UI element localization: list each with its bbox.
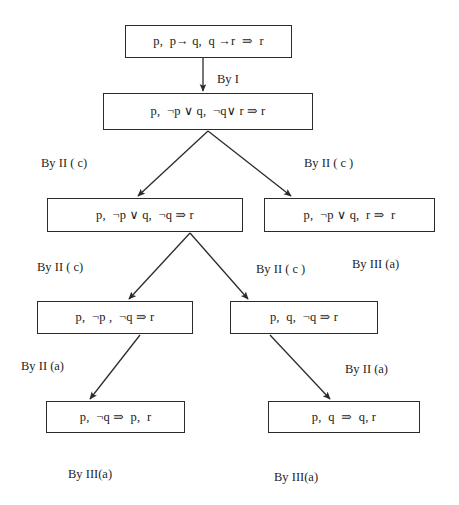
sequent-box-n1: p, p→ q, q →r ⇒ r bbox=[125, 25, 292, 58]
edge-n3-to-n6 bbox=[190, 233, 248, 299]
sequent-box-n6: p, q, ¬q ⇒ r bbox=[230, 301, 378, 334]
edge-n3-to-n5 bbox=[129, 233, 190, 299]
sequent-box-n8: p, q ⇒ q, r bbox=[268, 401, 420, 433]
sequent-text: p, ¬p , ¬q ⇒ r bbox=[70, 311, 161, 324]
rule-label-l-by-ii-a-2: By II (a) bbox=[345, 363, 388, 376]
edge-n2-to-n3 bbox=[138, 131, 208, 196]
rule-label-l-by-ii-a-1: By II (a) bbox=[21, 360, 64, 373]
rule-label-l-by-iii-a-2: By III(a) bbox=[68, 468, 112, 481]
rule-label-l-by-ii-c-3: By II ( c) bbox=[37, 261, 83, 274]
rule-label-l-by-ii-c-4: By II ( c ) bbox=[256, 263, 305, 276]
rule-label-l-by-iii-a-3: By III(a) bbox=[274, 471, 318, 484]
sequent-text: p, q, ¬q ⇒ r bbox=[264, 311, 344, 324]
rule-label-l-by-ii-c-1: By II ( c) bbox=[41, 157, 87, 170]
edge-n5-to-n7 bbox=[90, 335, 140, 399]
sequent-box-n3: p, ¬p ∨ q, ¬q ⇒ r bbox=[47, 198, 243, 232]
sequent-box-n5: p, ¬p , ¬q ⇒ r bbox=[37, 301, 193, 334]
sequent-box-n7: p, ¬q ⇒ p, r bbox=[46, 401, 185, 433]
sequent-text: p, ¬q ⇒ p, r bbox=[74, 411, 158, 424]
sequent-text: p, ¬p ∨ q, r ⇒ r bbox=[298, 209, 402, 222]
sequent-box-n4: p, ¬p ∨ q, r ⇒ r bbox=[264, 198, 435, 232]
rule-label-l-by-ii-c-2: By II ( c ) bbox=[304, 157, 353, 170]
edge-n6-to-n8 bbox=[270, 335, 330, 399]
proof-tree-diagram: p, p→ q, q →r ⇒ rp, ¬p ∨ q, ¬q∨ r ⇒ rp, … bbox=[0, 0, 459, 505]
rule-label-l-by-i: By I bbox=[217, 73, 239, 86]
rule-label-l-by-iii-a-1: By III (a) bbox=[352, 258, 399, 271]
sequent-text: p, ¬p ∨ q, ¬q ⇒ r bbox=[90, 209, 200, 222]
sequent-box-n2: p, ¬p ∨ q, ¬q∨ r ⇒ r bbox=[103, 93, 313, 130]
edge-n2-to-n4 bbox=[208, 131, 291, 196]
sequent-text: p, p→ q, q →r ⇒ r bbox=[147, 35, 270, 48]
sequent-text: p, ¬p ∨ q, ¬q∨ r ⇒ r bbox=[145, 105, 272, 118]
sequent-text: p, q ⇒ q, r bbox=[306, 411, 382, 424]
